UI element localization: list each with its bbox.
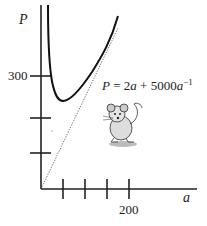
y-tick-label-300: 300 [8,69,28,82]
eq-plus: + 5000 [137,78,177,93]
y-axis-label: P [19,13,28,27]
x-tick-label-200: 200 [119,203,139,216]
eq-lhs: P [102,78,110,93]
mouse-icon [103,103,142,147]
dot-mark [51,130,52,131]
x-axis-label: a [183,191,190,205]
chart-canvas [0,0,207,226]
eq-eq: = 2 [110,78,130,93]
asymptote-line [41,28,118,189]
equation-label: P = 2a + 5000a−1 [102,78,193,92]
eq-exp: −1 [183,77,193,87]
